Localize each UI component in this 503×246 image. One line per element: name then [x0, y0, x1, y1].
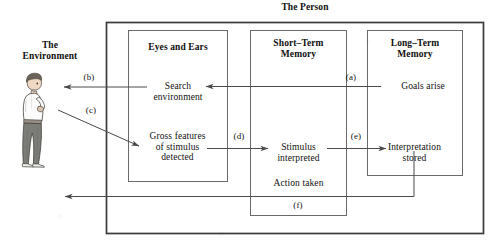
node-action-taken: Action taken [250, 178, 347, 189]
arrow-label-c: (c) [80, 105, 102, 115]
diagram-canvas [0, 0, 503, 246]
node-goals-arise: Goals arise [383, 81, 463, 92]
diagram-title: The Person [240, 2, 370, 13]
cognition-flow-diagram: The Person The Environment Eyes and Ears… [0, 0, 503, 246]
environment-label: The Environment [5, 40, 95, 61]
node-gross-features: Gross features of stimulus detected [128, 131, 227, 163]
node-search-environment: Search environment [130, 81, 226, 102]
arrow-label-b: (b) [78, 72, 100, 82]
arrow-label-a: (a) [340, 72, 362, 82]
eyes-and-ears-header: Eyes and Ears [128, 42, 228, 53]
arrow-label-f: (f) [287, 200, 309, 210]
arrow-label-d: (d) [228, 131, 250, 141]
node-interpretation-stored: Interpretation stored [366, 142, 463, 163]
arrow-f-action-to-environment [65, 151, 414, 197]
long-term-memory-header: Long–Term Memory [367, 38, 463, 59]
node-stimulus-interpreted: Stimulus interpreted [250, 142, 347, 163]
arrow-c-environment-to-gross-features [58, 110, 139, 146]
person-figure [22, 73, 44, 167]
short-term-memory-header: Short–Term Memory [250, 38, 347, 59]
arrow-label-e: (e) [345, 131, 367, 141]
